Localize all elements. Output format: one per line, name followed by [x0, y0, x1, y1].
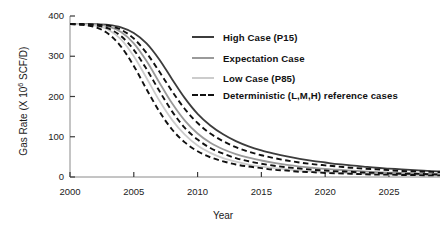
x-tick-label: 2000: [48, 186, 92, 197]
legend-swatch-solid-icon: [192, 57, 214, 59]
legend-label: Expectation Case: [223, 53, 305, 64]
y-axis-title-prefix: Gas Rate (X 10: [18, 87, 29, 156]
x-tick-label: 2005: [112, 186, 156, 197]
x-tick-label: 2015: [239, 186, 283, 197]
legend-item-0: High Case (P15): [192, 31, 298, 43]
legend-item-2: Low Case (P85): [192, 72, 295, 84]
y-axis-tick-marks: [70, 16, 75, 177]
legend-swatch-solid-icon: [192, 36, 214, 38]
y-axis-title-suffix: SCF/D): [18, 47, 29, 83]
legend-item-1: Expectation Case: [192, 52, 305, 64]
y-axis-title-exponent: 6: [17, 83, 24, 87]
gas-rate-decline-chart: 0100200300400 200020052010201520202025 G…: [0, 0, 446, 230]
x-tick-label: 2010: [176, 186, 220, 197]
legend-label: Low Case (P85): [223, 73, 295, 84]
y-tick-label: 400: [20, 10, 64, 21]
legend-item-3: Deterministic (L,M,H) reference cases: [192, 89, 398, 101]
x-tick-label: 2020: [303, 186, 347, 197]
x-axis-title: Year: [0, 210, 446, 221]
legend-label: Deterministic (L,M,H) reference cases: [223, 90, 398, 101]
y-axis-title: Gas Rate (X 106 SCF/D): [17, 26, 29, 176]
legend-swatch-solid-icon: [192, 77, 214, 79]
legend-label: High Case (P15): [223, 32, 298, 43]
legend-swatch-dashed-icon: [192, 94, 214, 96]
x-tick-label: 2025: [367, 186, 411, 197]
